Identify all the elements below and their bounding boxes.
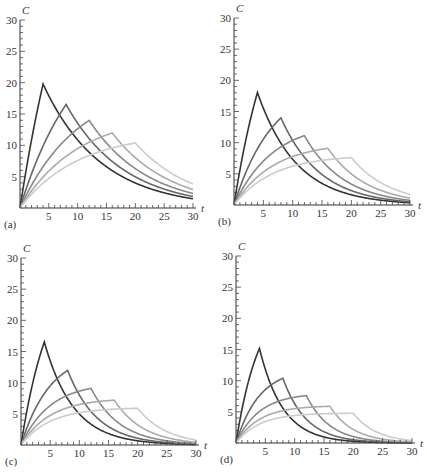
- x-tick-label: 5: [263, 445, 269, 457]
- panel-label: (c): [5, 455, 18, 468]
- x-tick-label: 25: [159, 210, 171, 222]
- x-tick-label: 10: [289, 445, 301, 457]
- y-tick-label: 10: [7, 377, 19, 389]
- y-tick-label: 10: [6, 139, 18, 151]
- figure: 5101520253051015202530Ct(a)5101520253051…: [0, 0, 427, 473]
- y-tick-label: 25: [222, 281, 234, 293]
- x-tick-label: 20: [346, 207, 358, 219]
- y-tick-label: 30: [220, 12, 232, 24]
- y-axis-label: C: [22, 4, 30, 16]
- x-tick-label: 15: [101, 210, 113, 222]
- x-tick-label: 5: [46, 210, 52, 222]
- x-tick-label: 30: [191, 447, 203, 459]
- y-tick-label: 30: [6, 14, 18, 26]
- x-tick-label: 25: [161, 447, 173, 459]
- x-tick-label: 10: [287, 207, 299, 219]
- y-tick-label: 10: [220, 137, 232, 149]
- panel-d: 5101520253051015202530Ct(d): [220, 240, 424, 466]
- curve-t-12: [234, 136, 410, 205]
- y-tick-label: 20: [222, 312, 234, 324]
- y-tick-label: 5: [13, 408, 19, 420]
- y-tick-label: 5: [228, 406, 234, 418]
- x-axis-label: t: [420, 437, 424, 449]
- x-tick-label: 15: [317, 207, 329, 219]
- y-tick-label: 15: [220, 106, 232, 118]
- panel-a: 5101520253051015202530Ct(a): [4, 4, 205, 231]
- x-tick-label: 30: [407, 445, 419, 457]
- y-tick-label: 25: [7, 283, 19, 295]
- y-tick-label: 10: [222, 375, 234, 387]
- y-tick-label: 25: [6, 45, 18, 57]
- x-tick-label: 15: [103, 447, 115, 459]
- y-tick-label: 20: [7, 314, 19, 326]
- curve-t-4: [236, 348, 412, 443]
- x-tick-label: 5: [261, 207, 267, 219]
- y-tick-label: 15: [7, 346, 19, 358]
- panel-label: (b): [218, 215, 231, 228]
- y-tick-label: 25: [220, 43, 232, 55]
- x-axis-label: t: [201, 202, 205, 214]
- x-tick-label: 25: [377, 445, 389, 457]
- x-tick-label: 10: [72, 210, 84, 222]
- x-tick-label: 20: [348, 445, 360, 457]
- x-axis-label: t: [418, 199, 422, 211]
- y-tick-label: 5: [226, 168, 232, 180]
- y-tick-label: 15: [222, 344, 234, 356]
- curve-t-20: [20, 143, 193, 208]
- x-tick-label: 5: [47, 447, 53, 459]
- panel-c: 5101520253051015202530Ct(c): [5, 242, 208, 468]
- y-axis-label: C: [238, 240, 246, 252]
- curve-t-8: [236, 378, 412, 443]
- x-tick-label: 10: [74, 447, 86, 459]
- y-tick-label: 15: [6, 108, 18, 120]
- panel-label: (d): [220, 453, 233, 466]
- x-axis-label: t: [204, 439, 208, 451]
- panel-b: 5101520253051015202530Ct(b): [218, 2, 422, 228]
- x-tick-label: 30: [188, 210, 200, 222]
- x-tick-label: 30: [405, 207, 417, 219]
- x-tick-label: 20: [132, 447, 144, 459]
- y-axis-label: C: [23, 242, 31, 254]
- panel-label: (a): [4, 218, 17, 231]
- y-axis-label: C: [236, 2, 244, 14]
- curve-t-8: [20, 104, 193, 208]
- x-tick-label: 15: [319, 445, 331, 457]
- curve-t-4: [21, 342, 196, 445]
- y-tick-label: 20: [6, 77, 18, 89]
- x-tick-label: 20: [130, 210, 142, 222]
- y-tick-label: 30: [222, 250, 234, 262]
- y-tick-label: 20: [220, 74, 232, 86]
- curve-t-12: [20, 120, 193, 208]
- y-tick-label: 5: [12, 171, 18, 183]
- y-tick-label: 30: [7, 252, 19, 264]
- x-tick-label: 25: [375, 207, 387, 219]
